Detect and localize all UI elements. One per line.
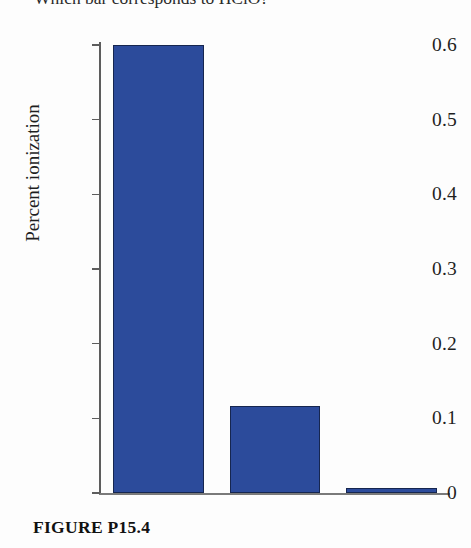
y-axis-tick-label: 0.6 bbox=[385, 34, 471, 56]
y-axis-tick bbox=[92, 194, 100, 196]
figure-caption: FIGURE P15.4 bbox=[33, 517, 150, 538]
y-axis-tick bbox=[92, 268, 100, 270]
y-axis-tick-label: 0.2 bbox=[385, 333, 471, 355]
y-axis-tick bbox=[92, 343, 100, 345]
y-axis-tick-label: 0.1 bbox=[385, 407, 471, 429]
y-axis-tick bbox=[92, 119, 100, 121]
y-axis-tick-label: 0 bbox=[385, 482, 471, 504]
bar-1[interactable] bbox=[113, 45, 203, 493]
y-axis-tick bbox=[92, 418, 100, 420]
y-axis-tick bbox=[92, 492, 100, 494]
y-axis-tick bbox=[92, 44, 100, 46]
y-axis-tick-label: 0.3 bbox=[385, 258, 471, 280]
figure-p15-4: Percent ionization FIGURE P15.4 00.10.20… bbox=[0, 0, 471, 548]
y-axis-tick-label: 0.5 bbox=[385, 109, 471, 131]
bar-2[interactable] bbox=[230, 406, 320, 493]
y-axis-title: Percent ionization bbox=[22, 78, 44, 268]
y-axis-tick-label: 0.4 bbox=[385, 183, 471, 205]
